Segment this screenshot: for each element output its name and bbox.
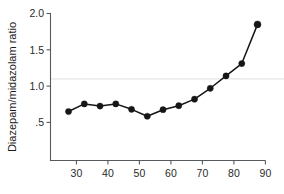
- x-tick-label-80: 80: [228, 167, 240, 179]
- data-point: [239, 60, 245, 66]
- data-point: [207, 85, 213, 91]
- x-tick-label-60: 60: [165, 167, 177, 179]
- data-point: [128, 106, 134, 112]
- data-point: [144, 113, 150, 119]
- x-tick-label-50: 50: [134, 167, 146, 179]
- data-point: [113, 101, 119, 107]
- data-series-markers: [65, 21, 261, 119]
- y-tick-label-0.5: .5: [35, 116, 44, 128]
- data-point: [223, 73, 229, 79]
- data-point: [254, 21, 261, 28]
- chart-canvas: 2.0 1.5 1.0 .5 30 40 50 60 70 80 90 Diaz…: [0, 0, 284, 194]
- data-point: [160, 107, 166, 113]
- data-series-line: [69, 24, 258, 116]
- y-axis-title: Diazepam/midazolam ratio: [6, 22, 18, 152]
- chart-figure: 2.0 1.5 1.0 .5 30 40 50 60 70 80 90 Diaz…: [0, 0, 284, 194]
- y-tick-label-1.5: 1.5: [29, 44, 44, 56]
- y-tick-label-2.0: 2.0: [29, 7, 44, 19]
- x-tick-label-70: 70: [197, 167, 209, 179]
- x-tick-label-40: 40: [102, 167, 114, 179]
- data-point: [81, 101, 87, 107]
- data-point: [191, 96, 197, 102]
- y-tick-label-1.0: 1.0: [29, 80, 44, 92]
- x-tick-label-30: 30: [71, 167, 83, 179]
- x-tick-label-90: 90: [260, 167, 272, 179]
- data-point: [97, 103, 103, 109]
- data-point: [176, 103, 182, 109]
- data-point: [65, 108, 71, 114]
